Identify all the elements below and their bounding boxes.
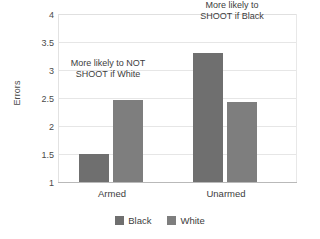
y-tick-label-2: 2 (28, 123, 54, 132)
y-tick-label-1-5: 1.5 (28, 151, 54, 160)
bar-armed-white (113, 100, 143, 182)
x-axis-line (58, 182, 297, 183)
y-tick-label-2-5: 2.5 (28, 95, 54, 104)
y-axis-tick-labels: 4 3.5 3 2.5 2 1.5 1 (24, 0, 54, 239)
bar-armed-black (79, 154, 109, 182)
y-tick-label-3-5: 3.5 (28, 39, 54, 48)
legend-swatch-black-icon (115, 216, 124, 225)
legend-item-white[interactable]: White (167, 216, 204, 226)
legend-label-white: White (180, 216, 204, 226)
gridline-2 (59, 126, 296, 127)
gridline-3-5 (59, 42, 296, 43)
legend-item-black[interactable]: Black (115, 216, 151, 226)
y-tick-label-4: 4 (28, 11, 54, 20)
y-tick-label-1: 1 (28, 179, 54, 188)
annotation-not-shoot-white: More likely to NOT SHOOT if White (58, 58, 158, 80)
gridline-2-5 (59, 98, 296, 99)
annotation-shoot-black: More likely to SHOOT if Black (182, 0, 282, 22)
y-tick-label-3: 3 (28, 67, 54, 76)
bar-unarmed-black (193, 53, 223, 182)
chart-legend: Black White (0, 216, 320, 226)
legend-label-black: Black (128, 216, 151, 226)
bar-chart: Errors 4 3.5 3 2.5 2 1.5 1 More likely t… (0, 0, 320, 239)
x-tick-label-unarmed: Unarmed (186, 188, 266, 199)
bar-unarmed-white (227, 102, 257, 182)
legend-swatch-white-icon (167, 216, 176, 225)
x-tick-label-armed: Armed (72, 188, 152, 199)
y-axis-title: Errors (12, 63, 22, 123)
plot-area (58, 14, 297, 182)
